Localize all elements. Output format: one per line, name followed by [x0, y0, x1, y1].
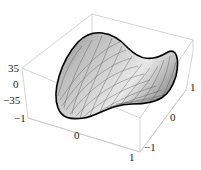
y-tick-0: 0 [170, 112, 176, 123]
x-tick-0: 0 [74, 130, 80, 141]
z-tick-35: 35 [8, 63, 19, 74]
z-tick-neg35: −35 [3, 95, 20, 106]
saddle-surface-plot [0, 0, 201, 170]
x-tick-1: 1 [129, 152, 135, 163]
y-tick-1: 1 [190, 82, 196, 93]
y-tick-neg1: −1 [144, 142, 156, 153]
z-tick-0: 0 [13, 79, 19, 90]
x-tick-neg1: −1 [14, 113, 26, 124]
